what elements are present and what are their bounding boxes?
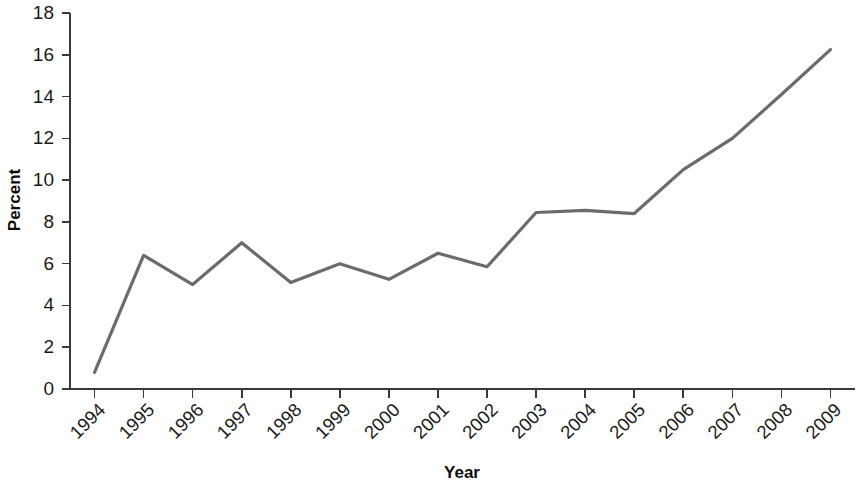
y-tick-label: 12 [33,127,54,148]
x-tick-label: 1997 [213,399,257,443]
y-tick-label: 4 [43,294,54,315]
y-tick-label: 6 [43,253,54,274]
y-tick-label: 8 [43,211,54,232]
x-axis-ticks [95,389,831,398]
x-tick-label: 2006 [654,399,698,443]
y-axis-title: Percent [5,168,24,231]
x-tick-label: 1994 [65,399,109,443]
y-tick-label: 0 [43,378,54,399]
data-series-line [95,50,831,373]
x-tick-label: 2003 [507,399,551,443]
plot-area: 024681012141618 199419951996199719981999… [33,2,855,443]
x-tick-label: 2007 [703,399,747,443]
chart-canvas: 024681012141618 199419951996199719981999… [0,0,859,489]
x-tick-label: 2001 [409,399,453,443]
y-tick-label: 16 [33,44,54,65]
y-axis-tick-labels: 024681012141618 [33,2,55,399]
line-chart: 024681012141618 199419951996199719981999… [0,0,859,489]
y-axis-ticks [62,13,70,389]
x-tick-label: 1996 [164,399,208,443]
x-axis-tick-labels: 1994199519961997199819992000200120022003… [65,399,845,443]
x-tick-label: 1995 [114,399,158,443]
x-tick-label: 1998 [262,399,306,443]
y-tick-label: 14 [33,86,55,107]
y-tick-label: 18 [33,2,54,23]
x-tick-label: 2008 [752,399,796,443]
y-tick-label: 2 [43,336,54,357]
y-tick-label: 10 [33,169,54,190]
x-tick-label: 2004 [556,399,600,443]
x-tick-label: 2000 [360,399,404,443]
x-tick-label: 2005 [605,399,649,443]
x-tick-label: 2002 [458,399,502,443]
x-axis-title: Year [444,463,480,482]
x-tick-label: 1999 [311,399,355,443]
x-tick-label: 2009 [801,399,845,443]
